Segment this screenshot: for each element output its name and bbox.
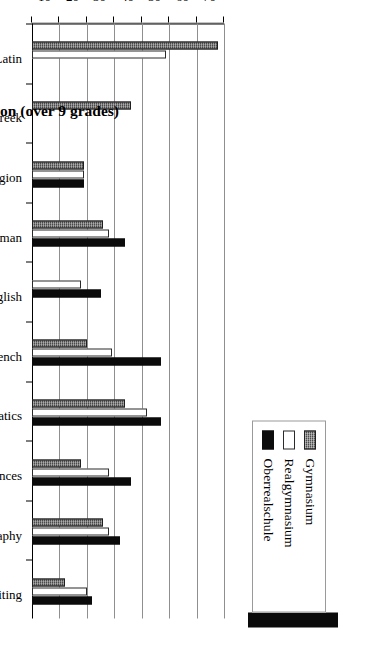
- value-tick-label-50: 50: [148, 0, 161, 5]
- category-tick-1: [26, 83, 32, 84]
- bar-group-religion: [32, 161, 84, 188]
- category-tick-5: [26, 321, 32, 322]
- legend-item-oberrealschule: Oberrealschule: [259, 430, 277, 602]
- bar-ober-6: [32, 417, 161, 425]
- bar-real-9: [32, 587, 87, 595]
- bar-real-5: [32, 348, 112, 356]
- category-label-0: Latin: [0, 50, 22, 66]
- category-tick-8: [26, 500, 32, 501]
- value-tick-0: [31, 16, 32, 22]
- value-tick-label-60: 60: [176, 0, 189, 5]
- bar-ober-5: [32, 357, 161, 365]
- value-tick-label-20: 20: [66, 0, 79, 5]
- category-tick-0: [26, 23, 32, 24]
- value-tick-label-0: 0: [18, 0, 25, 1]
- category-tick-6: [26, 381, 32, 382]
- bar-gym-3: [32, 220, 103, 228]
- category-label-2: Religion: [0, 169, 22, 185]
- bar-ober-3: [32, 238, 125, 246]
- bar-real-8: [32, 527, 109, 535]
- bar-ober-9: [32, 596, 92, 604]
- value-tick-30: [113, 16, 114, 22]
- category-tick-4: [26, 261, 32, 262]
- gridline-60: [197, 23, 198, 618]
- value-tick-70: [223, 16, 224, 22]
- value-tick-label-70: 70: [203, 0, 216, 5]
- value-tick-20: [86, 16, 87, 22]
- bar-real-2: [32, 170, 84, 178]
- chart-legend: Gymnasium Realgymnasium Oberrealschule: [252, 420, 326, 612]
- gridline-40: [142, 23, 143, 618]
- gridline-70: [224, 23, 225, 618]
- value-tick-label-30: 30: [93, 0, 106, 5]
- bar-real-4: [32, 280, 81, 288]
- category-tick-9: [26, 559, 32, 560]
- legend-label-gymnasium: Gymnasium: [302, 458, 318, 525]
- value-tick-label-40: 40: [121, 0, 134, 5]
- bar-group-natural-sciences: [32, 459, 131, 486]
- bar-real-0: [32, 50, 166, 58]
- value-tick-10: [58, 16, 59, 22]
- bar-gym-5: [32, 339, 87, 347]
- bar-group-english: [32, 280, 101, 298]
- bar-group-drawing-writing: [32, 578, 92, 605]
- bar-gym-7: [32, 459, 81, 467]
- category-label-9: Drawing/ Writing: [0, 586, 22, 602]
- legend-item-gymnasium: Gymnasium: [301, 430, 319, 602]
- category-tick-3: [26, 202, 32, 203]
- category-label-8: History/ Geography: [0, 527, 22, 543]
- bar-gym-0: [32, 41, 219, 49]
- category-label-7: Natural Sciences: [0, 467, 22, 483]
- bar-gym-2: [32, 161, 84, 169]
- category-tick-2: [26, 142, 32, 143]
- bar-group-latin: [32, 41, 219, 59]
- legend-label-oberrealschule: Oberrealschule: [260, 458, 276, 541]
- bar-group-history-geography: [32, 518, 120, 545]
- value-tick-60: [196, 16, 197, 22]
- bar-real-3: [32, 229, 109, 237]
- legend-item-realgymnasium: Realgymnasium: [280, 430, 298, 602]
- category-label-6: Mathematics: [0, 407, 22, 423]
- category-label-5: French: [0, 348, 22, 364]
- bar-ober-2: [32, 179, 84, 187]
- value-tick-40: [141, 16, 142, 22]
- bar-ober-8: [32, 536, 120, 544]
- legend-edge-artifact: [248, 612, 338, 627]
- bar-real-7: [32, 468, 109, 476]
- bar-ober-7: [32, 477, 131, 485]
- legend-swatch-gymnasium-icon: [304, 430, 316, 449]
- bar-group-french: [32, 339, 161, 366]
- category-label-4: English: [0, 288, 22, 304]
- legend-label-realgymnasium: Realgymnasium: [281, 458, 297, 547]
- gridline-50: [169, 23, 170, 618]
- bar-chart-figure: Gymnasium Realgymnasium Oberrealschule 0…: [0, 0, 382, 667]
- category-axis-line: [32, 23, 224, 24]
- value-axis-title: Hours of weekly instruction (over 9 grad…: [0, 101, 119, 119]
- legend-swatch-realgymnasium-icon: [283, 430, 295, 449]
- bar-group-mathematics: [32, 399, 161, 426]
- value-tick-label-10: 10: [38, 0, 51, 5]
- category-tick-7: [26, 440, 32, 441]
- bar-real-6: [32, 408, 147, 416]
- bar-ober-4: [32, 289, 101, 297]
- bar-gym-6: [32, 399, 125, 407]
- value-tick-50: [168, 16, 169, 22]
- rotated-figure-stage: Gymnasium Realgymnasium Oberrealschule 0…: [0, 0, 382, 667]
- bar-gym-8: [32, 518, 103, 526]
- legend-swatch-oberrealschule-icon: [262, 430, 274, 449]
- bar-gym-9: [32, 578, 65, 586]
- category-label-3: German: [0, 229, 22, 245]
- bar-group-german: [32, 220, 125, 247]
